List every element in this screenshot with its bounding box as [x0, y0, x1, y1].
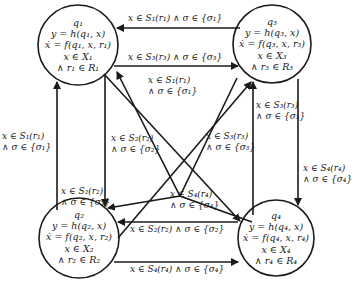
edge-label-q4-q2: x ∈ S₂(r₂) ∧ σ ∈ {σ₂}	[130, 224, 224, 235]
edge-label-q2-q1-l1: x ∈ S₁(r₁)	[2, 131, 51, 142]
node-q1: q₁ y = h(q₁, x) ẋ = f(q₁, x, r₁) x ∈ X₁ …	[38, 17, 118, 73]
edge-label-q1-q2-l1: x ∈ S₂(r₂)	[61, 186, 110, 197]
edge-label-q3-q2-l2: ∧ σ ∈ {σ₂}	[111, 144, 160, 155]
edge-label-q1-q4-l2: ∧ σ ∈ {σ₄}	[170, 200, 219, 211]
node-q1-name: q₁	[38, 17, 118, 28]
node-q3-invariant: x ∈ X₃	[232, 50, 312, 61]
edge-label-q1-q2-l2: ∧ σ ∈ {σ₂}	[61, 197, 110, 208]
node-q4-name: q₄	[236, 210, 316, 221]
edge-label-q3-q4-l2: ∧ σ ∈ {σ₄}	[303, 174, 352, 185]
node-q3-name: q₃	[232, 16, 312, 27]
edge-label-q1-q4: x ∈ S₄(r₄) ∧ σ ∈ {σ₄}	[170, 189, 219, 211]
node-q2-input-constraint: ∧ r₂ ∈ R₂	[39, 254, 119, 265]
node-q2-invariant: x ∈ X₂	[39, 243, 119, 254]
edge-label-q2-q1-l2: ∧ σ ∈ {σ₁}	[2, 142, 51, 153]
node-q2-dynamics: ẋ = f(q₂, x, r₂)	[39, 231, 119, 242]
edge-label-q3-q1: x ∈ S₁(r₁) ∧ σ ∈ {σ₁}	[128, 13, 222, 24]
edge-label-q1-q2: x ∈ S₂(r₂) ∧ σ ∈ {σ₂}	[61, 186, 110, 208]
node-q3-dynamics: ẋ = f(q₃, x, r₃)	[232, 38, 312, 49]
edge-label-q4-q3-l1: x ∈ S₃(r₃)	[256, 100, 305, 111]
edge-label-q4-q3-l2: ∧ σ ∈ {σ₃}	[256, 111, 305, 122]
edge-label-q4-q3: x ∈ S₃(r₃) ∧ σ ∈ {σ₃}	[256, 100, 305, 122]
edge-label-q3-q2: x ∈ S₂(r₂) ∧ σ ∈ {σ₂}	[111, 133, 160, 155]
node-q2: q₂ y = h(q₂, x) ẋ = f(q₂, x, r₂) x ∈ X₂ …	[39, 209, 119, 265]
node-q1-invariant: x ∈ X₁	[38, 51, 118, 62]
edge-label-q3-q2-l1: x ∈ S₂(r₂)	[111, 133, 160, 144]
edge-label-q2-q1: x ∈ S₁(r₁) ∧ σ ∈ {σ₁}	[2, 131, 51, 153]
node-q1-dynamics: ẋ = f(q₁, x, r₁)	[38, 39, 118, 50]
node-q1-input-constraint: ∧ r₁ ∈ R₁	[38, 62, 118, 73]
edge-label-q4-q1-l1: x ∈ S₁(r₁)	[148, 75, 197, 86]
node-q4-output: y = h(q₄, x)	[236, 221, 316, 232]
node-q2-name: q₂	[39, 209, 119, 220]
edge-label-q1-q3: x ∈ S₃(r₃) ∧ σ ∈ {σ₃}	[128, 52, 222, 63]
edge-label-q4-q1-l2: ∧ σ ∈ {σ₁}	[148, 86, 197, 97]
node-q2-output: y = h(q₂, x)	[39, 220, 119, 231]
node-q4: q₄ y = h(q₄, x) ẋ = f(q₄, x, r₄) x ∈ X₄ …	[236, 210, 316, 266]
node-q4-input-constraint: ∧ r₄ ∈ R₄	[236, 255, 316, 266]
edge-label-q2-q4: x ∈ S₄(r₄) ∧ σ ∈ {σ₄}	[130, 264, 224, 275]
edge-label-q2-q3: x ∈ S₃(r₃) ∧ σ ∈ {σ₃}	[206, 131, 255, 153]
node-q4-invariant: x ∈ X₄	[236, 244, 316, 255]
edge-label-q1-q4-l1: x ∈ S₄(r₄)	[170, 189, 219, 200]
edge-label-q4-q1: x ∈ S₁(r₁) ∧ σ ∈ {σ₁}	[148, 75, 197, 97]
edge-label-q2-q3-l1: x ∈ S₃(r₃)	[206, 131, 255, 142]
edge-label-q3-q4-l1: x ∈ S₄(r₄)	[303, 163, 352, 174]
edge-label-q3-q4: x ∈ S₄(r₄) ∧ σ ∈ {σ₄}	[303, 163, 352, 185]
node-q3-output: y = h(q₃, x)	[232, 27, 312, 38]
edge-label-q2-q3-l2: ∧ σ ∈ {σ₃}	[206, 142, 255, 153]
node-q3: q₃ y = h(q₃, x) ẋ = f(q₃, x, r₃) x ∈ X₃ …	[232, 16, 312, 72]
node-q4-dynamics: ẋ = f(q₄, x, r₄)	[236, 232, 316, 243]
node-q1-output: y = h(q₁, x)	[38, 28, 118, 39]
node-q3-input-constraint: ∧ r₃ ∈ R₃	[232, 61, 312, 72]
